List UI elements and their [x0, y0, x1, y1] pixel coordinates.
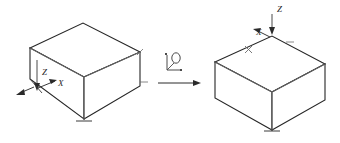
transformation-arrow	[158, 53, 201, 86]
source-orientation-box: Z X	[16, 23, 148, 121]
target-orientation-box: Z X	[215, 4, 325, 131]
source-axis-y-arrowhead	[16, 89, 25, 95]
coordinate-rotation-icon	[165, 53, 182, 71]
target-axis-z-arrowhead	[269, 27, 275, 35]
technical-diagram: Z X	[0, 0, 340, 143]
transition-arrow-head	[193, 80, 201, 86]
rotation-icon-end-tick	[180, 69, 182, 71]
target-axis-label-x: X	[255, 27, 262, 37]
diagram-canvas: Z X	[0, 0, 340, 143]
rotation-icon-corner-tick	[165, 53, 167, 55]
rotation-icon-marker	[172, 53, 180, 63]
source-axis-label-x: X	[57, 78, 64, 88]
target-axis-label-z: Z	[277, 4, 283, 14]
